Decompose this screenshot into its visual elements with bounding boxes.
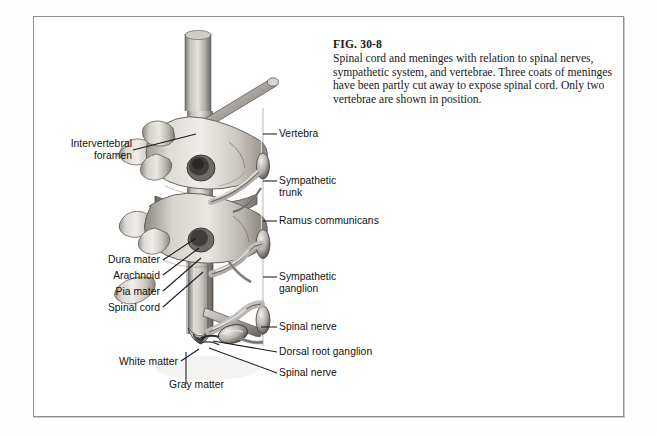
figure-page: Intervertebral foramen Dura mater Arachn… xyxy=(0,0,657,436)
label-dorsal-root-ganglion: Dorsal root ganglion xyxy=(279,346,372,358)
figure-caption-text: Spinal cord and meninges with relation t… xyxy=(333,52,623,106)
label-vertebra: Vertebra xyxy=(279,128,318,140)
label-white-matter: White matter xyxy=(104,356,178,368)
figure-number: FIG. 30-8 xyxy=(333,38,623,50)
label-spinal-cord: Spinal cord xyxy=(58,302,160,314)
figure-caption: FIG. 30-8 Spinal cord and meninges with … xyxy=(333,38,623,106)
label-intervertebral-foramen: Intervertebral foramen xyxy=(40,138,132,161)
label-dura-mater: Dura mater xyxy=(58,254,160,266)
label-gray-matter: Gray matter xyxy=(148,379,224,391)
label-pia-mater: Pia mater xyxy=(58,286,160,298)
label-sympathetic-ganglion: Sympathetic ganglion xyxy=(279,271,336,294)
label-spinal-nerve-upper: Spinal nerve xyxy=(279,321,337,333)
illustration-content xyxy=(114,30,278,380)
label-ramus-communicans: Ramus communicans xyxy=(279,215,379,227)
label-sympathetic-trunk: Sympathetic trunk xyxy=(279,175,336,198)
sympathetic-ganglion-lower xyxy=(256,306,270,334)
label-arachnoid: Arachnoid xyxy=(58,270,160,282)
label-spinal-nerve-lower: Spinal nerve xyxy=(279,367,337,379)
